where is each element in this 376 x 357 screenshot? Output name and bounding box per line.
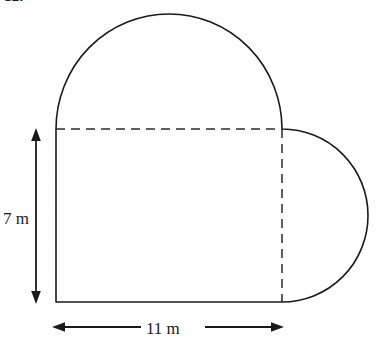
shape-outline-path	[56, 14, 368, 302]
figure-root: 12. 7 m 11 m	[0, 0, 376, 357]
height-dimension-arrow	[31, 128, 41, 304]
height-arrowhead-top	[31, 128, 41, 141]
width-dimension-label: 11 m	[146, 319, 180, 338]
height-arrowhead-bottom	[31, 291, 41, 304]
width-arrowhead-left	[52, 322, 65, 332]
width-arrowhead-right	[271, 322, 284, 332]
height-dimension-label: 7 m	[3, 209, 29, 228]
composite-shape-diagram: 7 m 11 m	[0, 0, 376, 357]
